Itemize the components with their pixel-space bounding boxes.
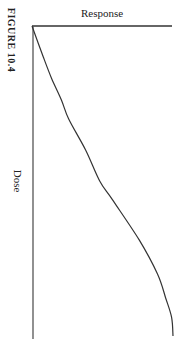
- dose-response-figure: FIGURE 10.4 Response Dose: [0, 0, 188, 363]
- chart-plot-area: [0, 0, 188, 363]
- dose-response-curve: [32, 26, 173, 336]
